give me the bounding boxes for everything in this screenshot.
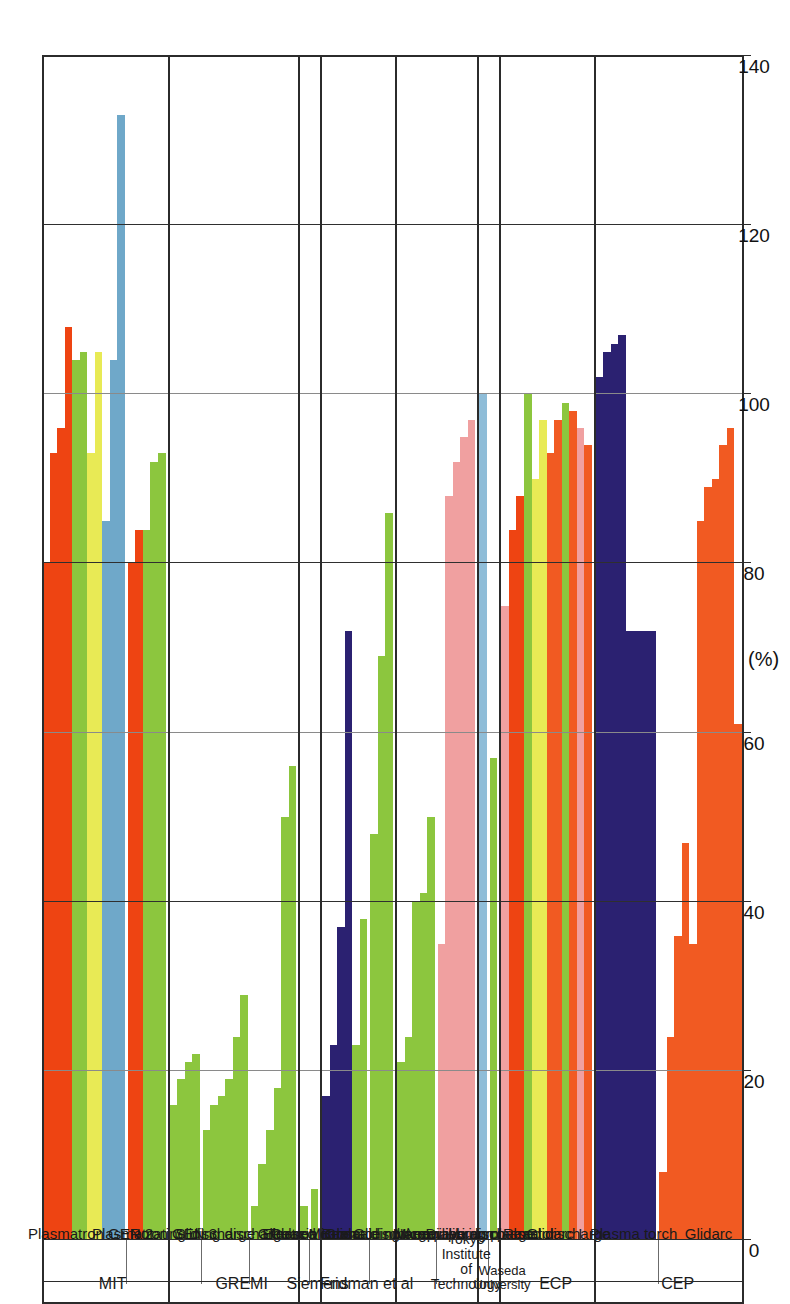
bar — [682, 843, 690, 1240]
bar-row — [659, 56, 667, 1240]
bar — [634, 631, 642, 1240]
bar-row — [427, 56, 435, 1240]
bar-row — [87, 56, 95, 1240]
gridline-120 — [42, 224, 742, 225]
bar-row — [143, 56, 151, 1240]
bar-row — [719, 56, 727, 1240]
tick-label-40: 40 — [743, 902, 764, 924]
bar — [547, 454, 555, 1241]
bar-row — [596, 56, 604, 1240]
bar-row — [697, 56, 705, 1240]
bar-row — [397, 56, 405, 1240]
bar — [532, 479, 540, 1240]
bar — [649, 631, 657, 1240]
group-separator — [395, 56, 397, 1304]
bar-row — [682, 56, 690, 1240]
bar — [412, 902, 420, 1240]
bar — [626, 631, 634, 1240]
bar — [611, 344, 619, 1240]
bar — [479, 394, 487, 1240]
bar — [110, 360, 118, 1240]
series-separator — [201, 1240, 202, 1284]
bar — [143, 530, 151, 1240]
bar — [719, 445, 727, 1240]
gridline-100 — [42, 393, 742, 394]
bar-row — [135, 56, 143, 1240]
bar-rows — [42, 56, 742, 1240]
group-label: Fridman et al — [320, 1275, 413, 1292]
group-label: MIT — [99, 1275, 127, 1292]
bar-row — [192, 56, 200, 1240]
bar — [185, 1062, 193, 1240]
bar-row — [274, 56, 282, 1240]
bar-row — [80, 56, 88, 1240]
bar — [674, 936, 682, 1240]
bar — [322, 1096, 330, 1240]
bar — [445, 496, 453, 1240]
bar-row — [460, 56, 468, 1240]
bar — [135, 530, 143, 1240]
group-label: CEP — [661, 1275, 694, 1292]
bar-row — [577, 56, 585, 1240]
bar-row — [674, 56, 682, 1240]
bar-row — [689, 56, 697, 1240]
bar-row — [170, 56, 178, 1240]
bar — [87, 454, 95, 1241]
bar-row — [584, 56, 592, 1240]
bar-row — [712, 56, 720, 1240]
bar — [420, 893, 428, 1240]
bar — [218, 1096, 226, 1240]
bar — [438, 944, 446, 1240]
bar-row — [603, 56, 611, 1240]
bar — [210, 1105, 218, 1240]
bar — [289, 766, 297, 1240]
frame-right-edge — [42, 55, 742, 57]
plot-area: Plasmatron GEN 2Plasmatron GEN 3MITRotat… — [42, 56, 742, 1240]
bar — [405, 1037, 413, 1240]
bar — [57, 428, 65, 1240]
bar — [427, 817, 435, 1240]
bar — [266, 1130, 274, 1240]
bar — [80, 352, 88, 1240]
bar — [577, 428, 585, 1240]
bar-row — [233, 56, 241, 1240]
bar-row — [266, 56, 274, 1240]
bar-row — [95, 56, 103, 1240]
bar — [539, 420, 547, 1240]
bar — [337, 927, 345, 1240]
bar — [509, 530, 517, 1240]
gridline-80 — [42, 562, 742, 563]
tick-label-100: 100 — [738, 394, 770, 416]
bar-row — [641, 56, 649, 1240]
bar-row — [490, 56, 498, 1240]
group-separator — [168, 56, 170, 1304]
bar-row — [65, 56, 73, 1240]
bar-row — [634, 56, 642, 1240]
bar — [370, 834, 378, 1240]
bar — [385, 513, 393, 1240]
bar-row — [281, 56, 289, 1240]
bar-row — [516, 56, 524, 1240]
bar — [192, 1054, 200, 1240]
value-axis-ticks: 020406080100120140 — [742, 56, 790, 1240]
bar — [158, 454, 166, 1241]
bar-row — [618, 56, 626, 1240]
bar — [203, 1130, 211, 1240]
bar — [378, 656, 386, 1240]
bar-row — [626, 56, 634, 1240]
bar-row — [412, 56, 420, 1240]
bar — [460, 437, 468, 1240]
bar — [562, 403, 570, 1240]
bar — [734, 724, 742, 1240]
bar — [569, 411, 577, 1240]
bar-row — [203, 56, 211, 1240]
bar-row — [611, 56, 619, 1240]
bar — [453, 462, 461, 1240]
bar-row — [501, 56, 509, 1240]
bar — [102, 521, 110, 1240]
tick-label-0: 0 — [749, 1240, 760, 1262]
tick-label-60: 60 — [743, 733, 764, 755]
bar — [554, 420, 562, 1240]
bar — [397, 1062, 405, 1240]
bar-row — [150, 56, 158, 1240]
